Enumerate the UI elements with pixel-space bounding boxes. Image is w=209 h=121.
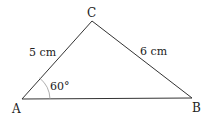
- vertex-label-b: B: [192, 101, 201, 115]
- vertex-label-c: C: [87, 6, 96, 20]
- side-label-ac: 5 cm: [29, 46, 57, 59]
- side-label-cb: 6 cm: [140, 45, 168, 58]
- angle-arc-a: [40, 78, 51, 99]
- vertex-label-a: A: [11, 102, 21, 116]
- triangle-diagram: C A B 5 cm 6 cm 60°: [0, 0, 209, 121]
- angle-label-a: 60°: [50, 80, 70, 93]
